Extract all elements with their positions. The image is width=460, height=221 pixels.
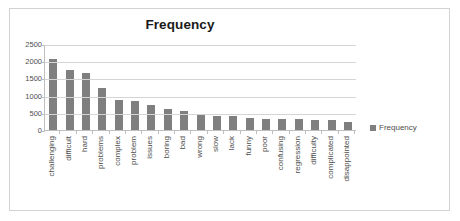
gridline [45,114,356,115]
x-axis-tickmarks [44,131,355,135]
x-tickmark [273,131,289,135]
bar[interactable] [131,101,139,130]
x-label-slot: complicated [322,136,338,206]
bar-slot [61,45,77,130]
x-axis-category-label: difficulty [310,136,318,165]
bar-slot [274,45,290,130]
y-tickmark [42,62,45,63]
y-axis-tick-label: 1500 [25,76,42,84]
y-tickmark [42,97,45,98]
x-label-slot: lack [224,136,240,206]
x-axis-category-label: challenging [48,136,56,176]
gridline [45,62,356,63]
legend-swatch-icon [370,125,376,131]
bar-slot [45,45,61,130]
bar[interactable] [278,119,286,130]
x-label-slot: disappointed [339,136,355,206]
x-tickmark [110,131,126,135]
x-tickmark [339,131,355,135]
x-axis-category-label: problem [130,136,138,165]
y-tickmark [42,114,45,115]
x-axis-category-label: boring [163,136,171,158]
bar-slot [111,45,127,130]
bar-slot [225,45,241,130]
x-tickmark [93,131,109,135]
y-axis: 05001000150020002500 [15,45,42,131]
bar[interactable] [229,116,237,130]
bar-slot [340,45,356,130]
bar[interactable] [164,109,172,130]
bar-slot [258,45,274,130]
x-tickmark [241,131,257,135]
y-tickmark [42,79,45,80]
chart-frame: Frequency 05001000150020002500 challengi… [9,8,450,211]
x-tickmark [159,131,175,135]
x-label-slot: complex [110,136,126,206]
x-axis-category-label: complex [114,136,122,166]
plot-wrapper: 05001000150020002500 challengingdifficul… [10,9,451,212]
bar-slot [291,45,307,130]
plot-area [44,45,356,131]
x-axis-category-label: funny [245,136,253,156]
chart-legend: Frequency [370,123,417,132]
bar[interactable] [49,59,57,130]
x-label-slot: funny [241,136,257,206]
x-tickmark [306,131,322,135]
x-axis-category-label: poor [261,136,269,152]
legend-label: Frequency [379,123,417,132]
x-tickmark [142,131,158,135]
x-label-slot: poor [257,136,273,206]
x-axis-category-label: wrong [196,136,204,158]
bar[interactable] [147,105,155,130]
bar[interactable] [98,88,106,131]
x-label-slot: bad [175,136,191,206]
x-axis-category-label: difficult [65,136,73,161]
bar[interactable] [246,118,254,130]
bar-series [45,45,356,130]
x-axis-category-label: problems [97,136,105,169]
x-label-slot: confusing [273,136,289,206]
gridline [45,97,356,98]
bar[interactable] [295,119,303,130]
x-axis-category-label: bad [179,136,187,149]
x-label-slot: hard [77,136,93,206]
bar-slot [78,45,94,130]
bar-slot [143,45,159,130]
x-axis-category-label: complicated [327,136,335,179]
x-label-slot: slow [208,136,224,206]
bar-slot [307,45,323,130]
x-label-slot: problem [126,136,142,206]
y-axis-tick-label: 1000 [25,93,42,101]
bar[interactable] [197,115,205,130]
gridline [45,79,356,80]
bar-slot [323,45,339,130]
x-label-slot: problems [93,136,109,206]
x-tickmark [257,131,273,135]
x-label-slot: wrong [191,136,207,206]
bar[interactable] [82,73,90,130]
x-label-slot: issues [142,136,158,206]
bar[interactable] [262,119,270,130]
bar-slot [94,45,110,130]
x-axis-category-label: slow [212,136,220,152]
bar[interactable] [213,116,221,130]
bar[interactable] [311,120,319,130]
bar-slot [192,45,208,130]
x-tickmark [208,131,224,135]
x-label-slot: difficulty [306,136,322,206]
bar[interactable] [344,122,352,130]
x-axis-labels: challengingdifficulthardproblemscomplexp… [44,136,355,206]
x-axis-category-label: issues [146,136,154,159]
x-tickmark [224,131,240,135]
y-axis-tick-label: 500 [29,110,42,118]
bar[interactable] [115,100,123,130]
x-axis-category-label: lack [228,136,236,150]
bar[interactable] [328,120,336,130]
bar-slot [160,45,176,130]
x-tickmark [44,131,60,135]
bar-slot [176,45,192,130]
x-tickmark [60,131,76,135]
x-tickmark [290,131,306,135]
x-axis-category-label: confusing [277,136,285,170]
x-tickmark [77,131,93,135]
